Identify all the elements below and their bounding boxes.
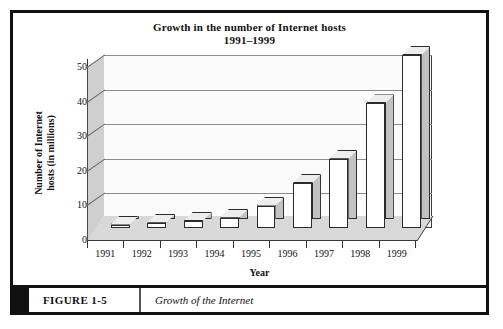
bar-front-face [220,218,239,228]
x-tick-mark [123,241,124,248]
x-tick-label-1993: 1993 [160,248,196,259]
x-tick-label-1998: 1998 [342,248,378,259]
bar-1992 [147,214,166,228]
x-tick-label-1992: 1992 [123,248,159,259]
y-tick-label: 10 [63,199,87,210]
bar-side-face [385,94,394,219]
y-axis-title-line2: hosts (in millions) [45,93,57,213]
x-tick-mark [87,241,88,248]
plot-area: Number of Internet hosts (in millions) 0… [27,55,478,270]
x-tick-label-1991: 1991 [87,248,123,259]
y-axis-title: Number of Internet hosts (in millions) [33,93,57,213]
x-tick-mark [233,241,234,248]
bar-front-face [293,183,312,228]
chart-title: Growth in the number of Internet hosts 1… [13,21,486,47]
bar-1999 [402,46,421,228]
x-tick-mark [379,241,380,248]
caption-swatch [13,288,29,312]
y-tick-label: 40 [63,96,87,107]
figure-caption-bar: FIGURE 1-5 Growth of the Internet [13,285,486,312]
bar-front-face [402,55,421,228]
chart-title-line1: Growth in the number of Internet hosts [13,21,486,34]
y-tick-label: 0 [63,234,87,245]
bar-1994 [220,209,239,228]
bar-front-face [111,225,130,228]
bar-1997 [329,150,348,228]
x-tick-label-1997: 1997 [306,248,342,259]
figure-frame: Growth in the number of Internet hosts 1… [10,10,489,315]
bar-front-face [257,206,276,228]
bar-front-face [147,223,166,228]
bar-front-face [329,159,348,228]
x-tick-mark [160,241,161,248]
y-tick-label: 20 [63,165,87,176]
plot-left-wall-edge [87,67,88,240]
bar-1996 [293,174,312,228]
bar-front-face [184,221,203,228]
x-tick-label-1995: 1995 [233,248,269,259]
x-tick-mark [269,241,270,248]
y-tick-label: 50 [63,61,87,72]
bar-front-face [366,103,385,228]
x-tick-mark [306,241,307,248]
y-tick-label: 30 [63,130,87,141]
figure-number: FIGURE 1-5 [29,288,141,312]
gridline [104,90,432,91]
chart-plot-3d [87,55,432,240]
bar-1995 [257,197,276,228]
figure-caption-text: Growth of the Internet [141,288,486,312]
y-axis-title-line1: Number of Internet [33,93,45,213]
x-axis-title: Year [87,267,432,278]
bar-1993 [184,212,203,228]
x-tick-mark [415,241,416,248]
bar-1998 [366,94,385,228]
x-tick-mark [342,241,343,248]
x-tick-label-1999: 1999 [379,248,415,259]
plot-left-wall [87,55,104,241]
bar-side-face [421,46,430,219]
bar-1991 [111,216,130,228]
bar-side-face [348,150,357,219]
gridline [104,55,432,56]
x-tick-label-1994: 1994 [196,248,232,259]
x-tick-mark [196,241,197,248]
y-axis-ticks: 01020304050 [61,55,87,230]
x-tick-label-1996: 1996 [269,248,305,259]
x-axis: 199119921993199419951996199719981999 [87,241,432,267]
